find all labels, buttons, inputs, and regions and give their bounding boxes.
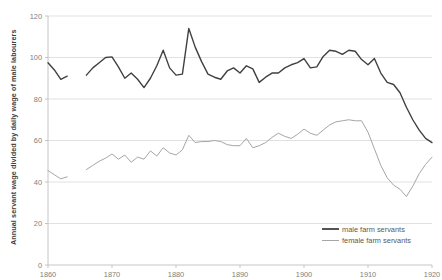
chart-container: Annual servant wage divided by daily wag… [0, 0, 442, 280]
chart-legend: male farm servantsfemale farm servants [322, 225, 411, 246]
data-series-group [48, 28, 432, 196]
y-tick-label: 100 [30, 53, 42, 62]
line-chart-plot: 020406080100120 186018701880189019001910… [0, 0, 442, 280]
y-tick-labels-group: 020406080100120 [30, 12, 48, 270]
series-line-male-farm-servants [48, 63, 67, 80]
y-tick-label: 120 [30, 12, 42, 21]
x-tick-label: 1920 [424, 270, 440, 279]
x-tick-label: 1880 [168, 270, 184, 279]
x-tick-label: 1910 [360, 270, 376, 279]
x-tick-marks-group [48, 265, 432, 268]
x-tick-labels-group: 1860187018801890190019101920 [40, 270, 440, 279]
y-tick-label: 80 [34, 95, 42, 104]
series-line-male-farm-servants [86, 28, 432, 142]
x-tick-label: 1890 [232, 270, 248, 279]
y-tick-label: 60 [34, 136, 42, 145]
y-tick-label: 40 [34, 178, 42, 187]
legend-label: female farm servants [342, 236, 411, 245]
x-tick-label: 1900 [296, 270, 312, 279]
series-line-female-farm-servants [86, 120, 432, 197]
x-tick-label: 1870 [104, 270, 120, 279]
series-line-female-farm-servants [48, 171, 67, 179]
y-tick-label: 20 [34, 219, 42, 228]
x-tick-label: 1860 [40, 270, 56, 279]
gridlines-group [48, 16, 432, 224]
y-tick-label: 0 [38, 261, 42, 270]
legend-label: male farm servants [342, 225, 405, 234]
